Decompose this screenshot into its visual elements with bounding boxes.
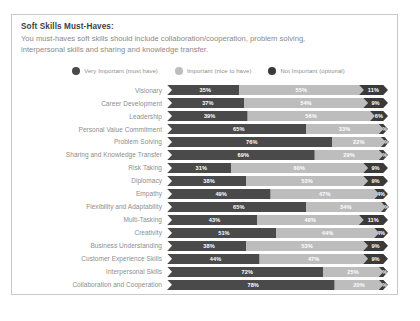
segment-very-important[interactable]: 51% <box>167 228 281 239</box>
segment-important[interactable]: 47% <box>259 254 368 265</box>
stacked-bar: 38%53%9% <box>167 241 388 252</box>
stacked-bar: 44%47%9% <box>167 254 388 265</box>
segment-value-label: 39% <box>204 113 216 119</box>
segment-value-label: 49% <box>215 191 227 197</box>
segment-value-label: 44% <box>322 230 334 236</box>
segment-value-label: 9% <box>371 100 379 106</box>
chart-legend: Very Important (must have)Important (nic… <box>21 67 388 75</box>
segment-important[interactable]: 55% <box>239 85 364 96</box>
segment-value-label: 65% <box>233 126 245 132</box>
segment-important[interactable]: 34% <box>306 202 386 213</box>
chart-row: Personal Value Commitment65%33%2% <box>21 123 388 135</box>
chart-row: Leadership39%56%6% <box>21 110 388 122</box>
segment-value-label: 60% <box>294 165 306 171</box>
legend-item[interactable]: Important (nice to have) <box>175 67 252 75</box>
circle-icon <box>175 67 183 75</box>
segment-very-important[interactable]: 72% <box>167 267 328 278</box>
segment-value-label: 53% <box>301 178 313 184</box>
segment-very-important[interactable]: 37% <box>167 98 249 109</box>
legend-item[interactable]: Very Important (must have) <box>72 67 158 75</box>
page-root: Soft Skills Must-Haves: You must-haves s… <box>0 0 420 321</box>
segment-value-label: 37% <box>202 100 214 106</box>
segment-very-important[interactable]: 43% <box>167 215 262 226</box>
segment-value-label: 44% <box>210 256 222 262</box>
segment-very-important[interactable]: 44% <box>167 254 264 265</box>
segment-important[interactable]: 53% <box>246 176 368 187</box>
segment-value-label: 31% <box>196 165 208 171</box>
stacked-bar: 39%56%6% <box>167 111 388 122</box>
segment-value-label: 29% <box>343 152 355 158</box>
segment-value-label: 69% <box>237 152 249 158</box>
chart-row-label: Problem Solving <box>21 138 167 145</box>
segment-value-label: 43% <box>209 217 221 223</box>
segment-very-important[interactable]: 49% <box>167 189 275 200</box>
chart-row: Creativity51%44%4% <box>21 227 388 239</box>
segment-important[interactable]: 29% <box>314 150 383 161</box>
stacked-bar: 35%55%11% <box>167 85 388 96</box>
segment-value-label: 78% <box>247 282 259 288</box>
segment-important[interactable]: 33% <box>306 124 384 135</box>
chart-row: Career Development37%54%9% <box>21 97 388 109</box>
stacked-bar: 65%34%1% <box>167 202 388 213</box>
segment-very-important[interactable]: 78% <box>167 280 339 291</box>
chart-row: Customer Experience Skills44%47%9% <box>21 253 388 265</box>
stacked-bar: 49%47%4% <box>167 189 388 200</box>
segment-important[interactable]: 46% <box>257 215 364 226</box>
segment-important[interactable]: 56% <box>247 111 375 122</box>
segment-important[interactable]: 60% <box>231 163 369 174</box>
segment-value-label: 72% <box>242 269 254 275</box>
segment-important[interactable]: 25% <box>323 267 384 278</box>
segment-value-label: 20% <box>353 282 365 288</box>
stacked-bar: 78%20%2% <box>167 280 388 291</box>
segment-value-label: 9% <box>371 178 379 184</box>
segment-very-important[interactable]: 65% <box>167 202 311 213</box>
segment-value-label: 47% <box>308 256 320 262</box>
chart-row-label: Career Development <box>21 100 167 107</box>
segment-important[interactable]: 22% <box>332 137 386 148</box>
segment-very-important[interactable]: 31% <box>167 163 236 174</box>
segment-important[interactable]: 53% <box>246 241 368 252</box>
segment-value-label: 9% <box>371 243 379 249</box>
chart-row-label: Business Understanding <box>21 242 167 249</box>
segment-very-important[interactable]: 38% <box>167 176 251 187</box>
segment-very-important[interactable]: 65% <box>167 124 311 135</box>
segment-very-important[interactable]: 38% <box>167 241 251 252</box>
chart-row-label: Risk Taking <box>21 164 167 171</box>
chart-row-label: Empathy <box>21 190 167 197</box>
segment-value-label: 53% <box>301 243 313 249</box>
stacked-bar: 76%22%1% <box>167 137 388 148</box>
segment-important[interactable]: 47% <box>270 189 379 200</box>
segment-important[interactable]: 44% <box>276 228 379 239</box>
segment-value-label: 76% <box>246 139 258 145</box>
chart-row-label: Diplomacy <box>21 177 167 184</box>
segment-important[interactable]: 20% <box>334 280 383 291</box>
stacked-bar: 38%53%9% <box>167 176 388 187</box>
chart-row-label: Interpersonal Skills <box>21 268 167 275</box>
segment-very-important[interactable]: 35% <box>167 85 244 96</box>
chart-row-label: Multi-Tasking <box>21 216 167 223</box>
legend-item[interactable]: Not Important (optional) <box>268 67 344 75</box>
segment-very-important[interactable]: 69% <box>167 150 319 161</box>
chart-row-label: Customer Experience Skills <box>21 255 167 262</box>
chart-row: Diplomacy38%53%9% <box>21 175 388 187</box>
card-title: Soft Skills Must-Haves: <box>21 22 388 32</box>
chart-row-label: Sharing and Knowledge Transfer <box>21 151 167 158</box>
segment-very-important[interactable]: 76% <box>167 137 337 148</box>
segment-value-label: 9% <box>371 165 379 171</box>
segment-value-label: 33% <box>339 126 351 132</box>
segment-value-label: 46% <box>305 217 317 223</box>
stacked-bar: 51%44%4% <box>167 228 388 239</box>
chart-row: Flexibility and Adaptability65%34%1% <box>21 201 388 213</box>
segment-value-label: 38% <box>203 178 215 184</box>
stacked-bar-chart: Visionary35%55%11%Career Development37%5… <box>21 84 388 291</box>
chart-row: Sharing and Knowledge Transfer69%29%2% <box>21 149 388 161</box>
segment-very-important[interactable]: 39% <box>167 111 252 122</box>
chart-row-label: Collaboration and Cooperation <box>21 281 167 288</box>
chart-row: Multi-Tasking43%46%11% <box>21 214 388 226</box>
segment-value-label: 38% <box>203 243 215 249</box>
stacked-bar: 43%46%11% <box>167 215 388 226</box>
chart-row-label: Personal Value Commitment <box>21 126 167 133</box>
chart-row: Interpersonal Skills72%25%2% <box>21 266 388 278</box>
segment-important[interactable]: 54% <box>244 98 368 109</box>
circle-icon <box>268 67 276 75</box>
